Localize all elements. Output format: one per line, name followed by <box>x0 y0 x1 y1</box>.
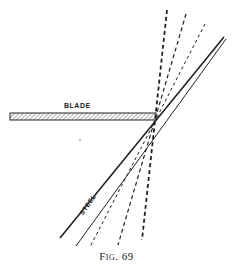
blade <box>10 113 156 120</box>
figure-diagram <box>0 0 233 265</box>
stray-dot <box>79 139 80 140</box>
figure-caption: Fig. 69 <box>0 250 233 262</box>
steel <box>60 37 226 246</box>
dashed-line-2 <box>118 14 186 245</box>
dashed-positions <box>90 10 205 247</box>
dashed-line-3 <box>90 24 205 247</box>
blade-label: BLADE <box>64 102 91 109</box>
